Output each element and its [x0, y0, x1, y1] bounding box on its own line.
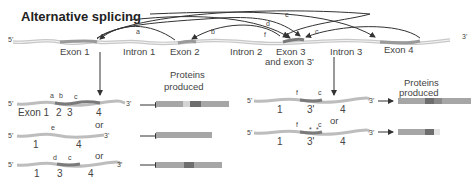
five-prime-label: 5' — [8, 132, 13, 139]
or-label: or — [95, 120, 103, 130]
exon-label: 4 — [340, 105, 346, 115]
exon-3-prime-label: and exon 3' — [265, 57, 314, 67]
five-prime-label: 5' — [8, 100, 13, 107]
intron-2-label: Intron 2 — [230, 47, 262, 57]
exon-4-label: Exon 4 — [384, 45, 414, 55]
site-c: c — [318, 89, 322, 96]
right-variants — [254, 98, 471, 135]
site-c: c — [68, 154, 72, 161]
three-prime-label: 3' — [462, 33, 467, 40]
three-prime-label: 3' — [369, 97, 374, 104]
splice-label-a: a — [136, 28, 140, 35]
exon-label: 4 — [96, 108, 102, 118]
exon-label: 1 — [277, 137, 283, 147]
five-prime-label: 5' — [8, 161, 13, 168]
three-prime-label: 3' — [117, 161, 122, 168]
right-produced-heading: produced — [399, 88, 439, 98]
stop-mark: * — [316, 126, 319, 133]
five-prime-label: 5' — [8, 36, 13, 43]
left-produced-heading: produced — [164, 82, 204, 92]
splice-arcs — [97, 11, 420, 40]
exon-2-label: Exon 2 — [170, 47, 200, 57]
exon-label: 3 — [67, 108, 73, 118]
three-prime-label: 3' — [104, 132, 109, 139]
intron-3-label: Intron 3 — [330, 47, 362, 57]
site-c: c — [74, 93, 78, 100]
splice-label-e: e — [285, 11, 289, 18]
site-d: d — [53, 154, 57, 161]
splice-label-c: c — [315, 28, 319, 35]
exon-label: 4 — [340, 137, 346, 147]
or-label: or — [330, 116, 338, 126]
three-prime-label: 3' — [126, 100, 131, 107]
splice-label-d: d — [266, 20, 270, 27]
exon-label: 4 — [76, 140, 82, 150]
three-prime-label: 3' — [369, 129, 374, 136]
site-f: f — [296, 121, 298, 128]
exon-label: 1 — [277, 105, 283, 115]
exon-label: Exon 1 — [18, 108, 49, 118]
exon-label: 2 — [56, 108, 62, 118]
intron-1-label: Intron 1 — [123, 47, 155, 57]
left-proteins-heading: Proteins — [170, 70, 205, 80]
exon-label: 3' — [307, 105, 314, 115]
site-f: f — [296, 89, 298, 96]
exon-label: 1 — [33, 140, 39, 150]
site-b: b — [59, 92, 63, 99]
five-prime-label: 5' — [247, 97, 252, 104]
splice-label-f: f — [264, 31, 266, 38]
splice-label-b: b — [211, 28, 215, 35]
exon-1-label: Exon 1 — [60, 47, 90, 57]
site-a: a — [50, 92, 54, 99]
exon-label: 3 — [57, 169, 63, 179]
five-prime-label: 5' — [247, 129, 252, 136]
or-label: or — [95, 151, 103, 161]
exon-label: 3' — [307, 137, 314, 147]
gene-strand — [13, 39, 450, 43]
stop-mark: * — [309, 126, 312, 133]
site-e: e — [51, 124, 55, 131]
exon-label: 1 — [34, 169, 40, 179]
exon-label: 4 — [88, 169, 94, 179]
